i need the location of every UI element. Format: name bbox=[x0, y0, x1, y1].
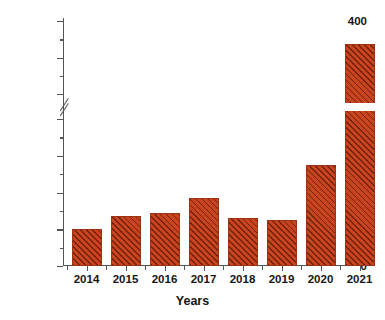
x-tick-minor bbox=[340, 266, 341, 270]
y-tick-minor bbox=[60, 76, 64, 77]
bar bbox=[150, 213, 180, 266]
x-tick-label: 2016 bbox=[152, 273, 178, 285]
x-tick bbox=[282, 266, 283, 271]
x-tick bbox=[360, 266, 361, 271]
y-tick-minor bbox=[60, 174, 64, 175]
x-tick-minor bbox=[106, 266, 107, 270]
y-tick-label: 400 bbox=[348, 15, 367, 27]
y-tick-minor bbox=[60, 211, 64, 212]
x-tick bbox=[321, 266, 322, 271]
y-tick-major bbox=[57, 156, 63, 157]
y-tick-minor bbox=[60, 137, 64, 138]
y-tick-major bbox=[57, 94, 63, 95]
y-tick-major bbox=[57, 266, 63, 267]
x-tick-minor bbox=[223, 266, 224, 270]
x-tick bbox=[87, 266, 88, 271]
x-tick-label: 2020 bbox=[308, 273, 334, 285]
x-tick-minor bbox=[184, 266, 185, 270]
x-tick-minor bbox=[262, 266, 263, 270]
bar bbox=[345, 44, 375, 266]
y-tick-major bbox=[57, 119, 63, 120]
bar bbox=[228, 218, 258, 266]
x-tick-label: 2021 bbox=[347, 273, 373, 285]
x-tick-minor bbox=[301, 266, 302, 270]
y-tick-minor bbox=[60, 248, 64, 249]
bar-axis-break-gap bbox=[344, 103, 376, 111]
y-axis-break-icon bbox=[56, 99, 72, 115]
bar bbox=[306, 165, 336, 266]
bar bbox=[111, 216, 141, 266]
bar bbox=[72, 229, 102, 266]
y-tick-major bbox=[57, 193, 63, 194]
bar bbox=[189, 198, 219, 266]
x-tick bbox=[204, 266, 205, 271]
x-tick-minor bbox=[145, 266, 146, 270]
x-tick-label: 2017 bbox=[191, 273, 217, 285]
x-tick-label: 2018 bbox=[230, 273, 256, 285]
x-tick-minor bbox=[67, 266, 68, 270]
x-tick bbox=[243, 266, 244, 271]
plot-area: 020406080300350400 201420152016201720182… bbox=[63, 18, 375, 266]
x-tick-label: 2015 bbox=[113, 273, 139, 285]
bar-chart-figure: Number of strandings 020406080300350400 … bbox=[0, 0, 385, 320]
x-axis-title: Years bbox=[0, 294, 385, 308]
y-axis-line bbox=[63, 18, 64, 266]
bar bbox=[267, 220, 297, 266]
y-tick-major bbox=[57, 21, 63, 22]
x-tick bbox=[165, 266, 166, 271]
x-tick bbox=[126, 266, 127, 271]
x-tick-label: 2014 bbox=[74, 273, 100, 285]
y-tick-major bbox=[57, 58, 63, 59]
x-tick-label: 2019 bbox=[269, 273, 295, 285]
y-tick-minor bbox=[60, 39, 64, 40]
y-tick-major bbox=[57, 229, 63, 230]
